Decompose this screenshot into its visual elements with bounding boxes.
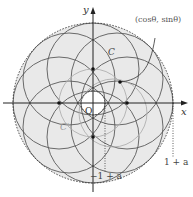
point-label: (cosθ, sinθ)	[135, 16, 181, 24]
origin-label: O	[85, 107, 92, 116]
diagram-canvas	[0, 0, 193, 197]
y-axis-arrow-icon	[91, 7, 96, 14]
x-axis-arrow-icon	[181, 101, 188, 106]
y-axis-label: y	[83, 5, 89, 15]
inner-value-label: −1 + a	[90, 172, 122, 181]
curve-c-label: C	[108, 48, 115, 57]
point-cos-sin	[118, 80, 122, 84]
outer-value-label: 1 + a	[164, 158, 188, 167]
x-axis-label: x	[181, 107, 187, 117]
curve-c-prime-label: C′	[60, 123, 69, 132]
